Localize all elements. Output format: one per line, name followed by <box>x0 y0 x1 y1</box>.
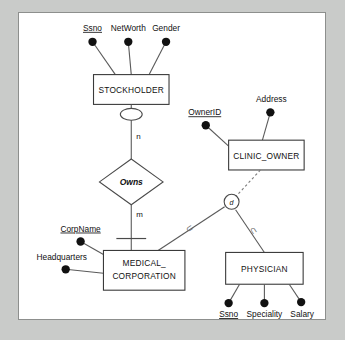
attribute-dot-gender <box>162 38 170 46</box>
er-diagram-canvas: Ssno NetWorth Gender STOCKHOLDER n Owns … <box>18 12 326 320</box>
attribute-dot-ssno-physician <box>224 299 232 307</box>
link-ownerid-clinic-owner <box>206 125 229 146</box>
link-ssno-stockholder <box>93 42 116 75</box>
entity-label-medical-corporation-line1: MEDICAL_ <box>123 258 166 268</box>
attribute-dot-address <box>266 108 274 116</box>
relationship-label-owns: Owns <box>120 177 143 187</box>
subset-symbol-right-icon: ⊂ <box>248 225 261 237</box>
link-address-clinic-owner <box>262 112 270 140</box>
attribute-dot-headquarters <box>62 265 70 273</box>
link-gender-stockholder <box>149 42 166 75</box>
attribute-dot-ssno-stockholder <box>88 38 96 46</box>
attribute-dot-speciality <box>260 299 268 307</box>
attribute-label-speciality: Speciality <box>247 309 283 319</box>
entity-label-medical-corporation-line2: CORPORATION <box>112 271 176 281</box>
entity-label-physician: PHYSICIAN <box>241 264 288 274</box>
cardinality-m: m <box>136 210 143 219</box>
attribute-label-gender: Gender <box>152 23 180 33</box>
attribute-label-salary: Salary <box>290 309 314 319</box>
link-headquarters-medical-corporation <box>66 269 104 273</box>
attribute-label-ownerid: OwnerID <box>188 107 221 117</box>
attribute-dot-corpname <box>76 237 84 245</box>
link-networth-stockholder <box>128 42 131 75</box>
attribute-dot-ownerid <box>202 121 210 129</box>
link-clinic-owner-specialization <box>236 170 261 197</box>
attribute-label-ssno-stockholder: Ssno <box>83 23 102 33</box>
attribute-label-networth: NetWorth <box>111 23 146 33</box>
attribute-label-corpname: CorpName <box>60 224 101 234</box>
attribute-dot-salary <box>297 298 305 306</box>
entity-label-clinic-owner: CLINIC_OWNER <box>233 151 299 161</box>
cardinality-n: n <box>136 132 140 141</box>
attribute-label-ssno-physician: Ssno <box>219 309 238 319</box>
attribute-label-address: Address <box>256 94 287 104</box>
entity-label-stockholder: STOCKHOLDER <box>99 85 164 95</box>
connector-oval <box>120 108 142 120</box>
attribute-dot-networth <box>124 38 132 46</box>
attribute-label-headquarters: Headquarters <box>36 252 86 262</box>
